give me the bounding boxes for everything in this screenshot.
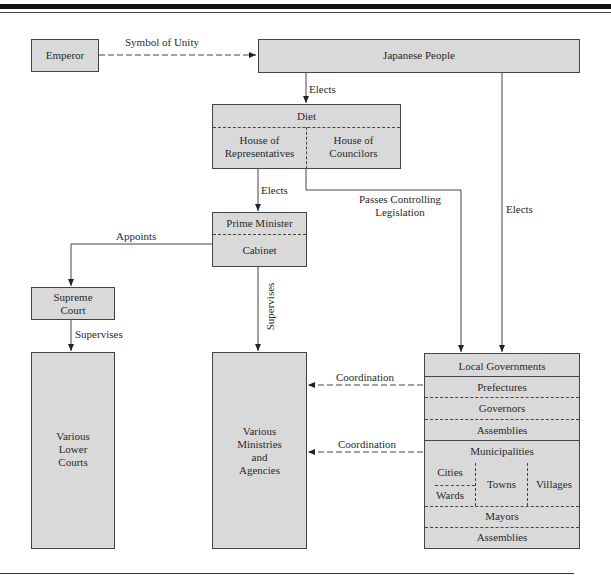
supreme-court-box: Supreme Court: [31, 287, 115, 320]
label-passes-line2: Legislation: [345, 206, 455, 219]
label-coordination-2: Coordination: [338, 438, 396, 451]
house-councilors-line1: House of: [307, 134, 400, 147]
supreme-court-label: Supreme Court: [32, 291, 114, 317]
label-symbol-of-unity: Symbol of Unity: [125, 36, 199, 49]
house-of-representatives: House of Representatives: [213, 134, 306, 160]
cities-wards-divider: [435, 485, 475, 486]
top-thick-rule: [0, 4, 611, 9]
pm-divider: [213, 234, 306, 235]
municipalities-label: Municipalities: [425, 445, 579, 458]
lower-courts-label: Various Lower Courts: [32, 430, 114, 469]
supreme-court-line1: Supreme: [32, 291, 114, 304]
japanese-people-box: Japanese People: [258, 39, 580, 73]
local-divider-2: [425, 397, 579, 398]
supreme-court-line2: Court: [32, 304, 114, 317]
villages-label: Villages: [528, 478, 580, 491]
prime-minister-box: Prime Minister Cabinet: [212, 212, 307, 267]
assemblies-2-label: Assemblies: [425, 531, 579, 544]
label-supervises-courts: Supervises: [75, 328, 123, 341]
house-reps-line2: Representatives: [213, 147, 306, 160]
ministries-line4: Agencies: [213, 464, 306, 477]
label-appoints: Appoints: [116, 230, 156, 243]
label-supervises-ministries: Supervises: [264, 277, 277, 337]
mayors-label: Mayors: [425, 510, 579, 523]
local-divider-1: [425, 376, 579, 377]
edge-appoints: [71, 244, 212, 286]
top-thin-rule: [0, 12, 611, 13]
ministries-line2: Ministries: [213, 438, 306, 451]
label-elects-local: Elects: [506, 203, 533, 216]
label-passes-line1: Passes Controlling: [345, 193, 455, 206]
emperor-label: Emperor: [32, 49, 98, 62]
label-passes-legislation: Passes Controlling Legislation: [345, 193, 455, 219]
towns-label: Towns: [476, 478, 527, 491]
ministries-box: Various Ministries and Agencies: [212, 352, 307, 549]
label-coordination-1: Coordination: [336, 371, 394, 384]
lower-courts-box: Various Lower Courts: [31, 352, 115, 549]
diet-title: Diet: [213, 110, 400, 123]
cabinet-label: Cabinet: [213, 244, 306, 257]
label-elects-pm: Elects: [261, 184, 288, 197]
ministries-line1: Various: [213, 425, 306, 438]
governors-label: Governors: [425, 402, 579, 415]
local-divider-4: [425, 440, 579, 441]
local-governments-box: Local Governments Prefectures Governors …: [424, 353, 580, 549]
local-governments-title: Local Governments: [425, 360, 579, 373]
lower-courts-line1: Various: [32, 430, 114, 443]
emperor-box: Emperor: [31, 39, 99, 72]
label-elects-diet: Elects: [309, 83, 336, 96]
japanese-people-label: Japanese People: [259, 49, 579, 62]
cities-label: Cities: [425, 466, 475, 479]
bottom-rule: [0, 573, 574, 574]
lower-courts-line3: Courts: [32, 456, 114, 469]
assemblies-1-label: Assemblies: [425, 424, 579, 437]
ministries-label: Various Ministries and Agencies: [213, 425, 306, 477]
house-councilors-line2: Councilors: [307, 147, 400, 160]
prefectures-label: Prefectures: [425, 381, 579, 394]
local-divider-6: [425, 527, 579, 528]
lower-courts-line2: Lower: [32, 443, 114, 456]
house-of-councilors: House of Councilors: [307, 134, 400, 160]
wards-label: Wards: [425, 489, 475, 502]
house-reps-line1: House of: [213, 134, 306, 147]
local-divider-5: [425, 506, 579, 507]
ministries-line3: and: [213, 451, 306, 464]
diet-box: Diet House of Representatives House of C…: [212, 104, 401, 169]
prime-minister-label: Prime Minister: [213, 217, 306, 230]
local-divider-3: [425, 419, 579, 420]
